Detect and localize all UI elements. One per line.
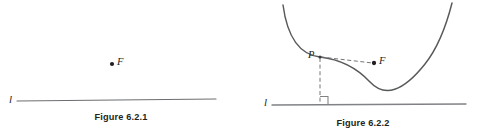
figure-6-2-1-panel: l F Figure 6.2.1 [0, 0, 242, 136]
label-point-p: P [308, 50, 314, 61]
point-p [319, 56, 322, 59]
figure-board: l F Figure 6.2.1 l P F Figure 6.2.2 [0, 0, 484, 136]
line-l [17, 99, 216, 101]
figure-6-2-1-caption: Figure 6.2.1 [0, 112, 242, 122]
label-line-l: l [264, 97, 267, 108]
label-point-f: F [379, 56, 385, 67]
parabola-curve [283, 3, 452, 90]
point-f [372, 61, 376, 65]
label-line-l: l [9, 94, 12, 105]
dashed-segment-p-to-f [321, 57, 373, 63]
line-l [272, 104, 466, 105]
label-point-f: F [117, 57, 123, 68]
figure-6-2-2-graphic [242, 0, 484, 136]
right-angle-marker [320, 97, 328, 105]
figure-6-2-2-caption: Figure 6.2.2 [242, 118, 484, 128]
point-f [110, 62, 114, 66]
figure-6-2-2-panel: l P F Figure 6.2.2 [242, 0, 484, 136]
